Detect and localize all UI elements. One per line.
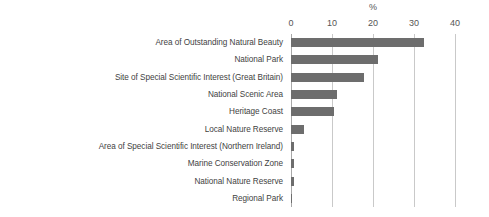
category-label: Area of Outstanding Natural Beauty [155, 38, 283, 47]
bar-row [291, 86, 489, 103]
category-label-row: Marine Conservation Zone [0, 155, 287, 172]
category-label: National Nature Reserve [194, 177, 283, 186]
bar-row [291, 120, 489, 137]
bar-row [291, 51, 489, 68]
bar-row [291, 172, 489, 189]
x-tick-label: 10 [327, 18, 337, 28]
x-tick-label: 0 [288, 18, 293, 28]
bar [291, 90, 337, 99]
category-label: National Park [235, 55, 284, 64]
x-axis-tick-labels: 010203040 [0, 18, 489, 32]
category-label: Heritage Coast [229, 107, 283, 116]
x-tick-label: 20 [368, 18, 378, 28]
category-label-row: National Scenic Area [0, 86, 287, 103]
bar-row [291, 155, 489, 172]
category-label-row: National Park [0, 51, 287, 68]
category-label: Local Nature Reserve [205, 125, 283, 134]
bar [291, 194, 292, 203]
bar [291, 142, 294, 151]
category-label: Marine Conservation Zone [188, 159, 283, 168]
category-label-row: Site of Special Scientific Interest (Gre… [0, 69, 287, 86]
x-tick-label: 40 [450, 18, 460, 28]
bar [291, 107, 334, 116]
category-label-row: Regional Park [0, 190, 287, 207]
x-tick-label: 30 [409, 18, 419, 28]
bar-row [291, 138, 489, 155]
category-label-row: Area of Special Scientific Interest (Nor… [0, 138, 287, 155]
bars-layer [291, 34, 489, 207]
category-label-row: Heritage Coast [0, 103, 287, 120]
bar-row [291, 103, 489, 120]
bar-row [291, 69, 489, 86]
category-axis-labels: Area of Outstanding Natural BeautyNation… [0, 34, 287, 207]
bar [291, 55, 378, 64]
category-label-row: Local Nature Reserve [0, 120, 287, 137]
axis-title-label: % [369, 2, 377, 12]
bar [291, 125, 304, 134]
bar [291, 159, 294, 168]
bar [291, 73, 364, 82]
category-label: Area of Special Scientific Interest (Nor… [99, 142, 283, 151]
bar-row [291, 190, 489, 207]
category-label-row: Area of Outstanding Natural Beauty [0, 34, 287, 51]
bar-chart: % 010203040 Area of Outstanding Natural … [0, 0, 489, 217]
category-label: National Scenic Area [208, 90, 283, 99]
bar [291, 38, 424, 47]
category-label: Regional Park [232, 194, 283, 203]
category-label: Site of Special Scientific Interest (Gre… [115, 73, 283, 82]
bar-row [291, 34, 489, 51]
bar [291, 177, 294, 186]
category-label-row: National Nature Reserve [0, 172, 287, 189]
